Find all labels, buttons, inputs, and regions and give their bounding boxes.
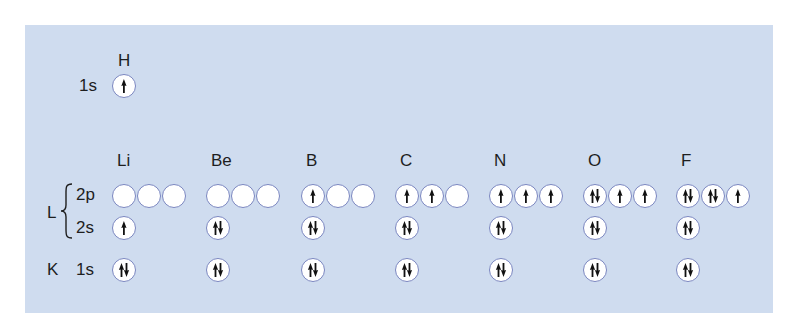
spin-pair-arrows-icon xyxy=(396,216,418,240)
subshell-label-2s: 2s xyxy=(76,219,94,237)
empty-orbital-icon xyxy=(327,184,349,208)
spin-pair-arrows-icon xyxy=(584,258,606,282)
element-label-li: Li xyxy=(117,152,130,170)
orbital-f-2s xyxy=(676,216,700,240)
element-label-o: O xyxy=(588,152,601,170)
spin-up-arrow-icon xyxy=(113,216,135,240)
spin-pair-arrows-icon xyxy=(677,258,699,282)
orbital-o-1s xyxy=(583,258,607,282)
orbital-be-2p-1 xyxy=(206,184,230,208)
orbital-c-2s xyxy=(395,216,419,240)
orbital-li-2p-2 xyxy=(137,184,161,208)
spin-pair-arrows-icon xyxy=(677,184,699,208)
spin-pair-arrows-icon xyxy=(396,258,418,282)
spin-pair-arrows-icon xyxy=(490,216,512,240)
spin-up-arrow-icon xyxy=(421,184,443,208)
orbital-b-2p-1 xyxy=(301,184,325,208)
empty-orbital-icon xyxy=(446,184,468,208)
element-label-n: N xyxy=(494,152,506,170)
element-label-h: H xyxy=(118,52,130,70)
orbital-be-2p-2 xyxy=(231,184,255,208)
element-label-b: B xyxy=(306,152,317,170)
orbital-n-2p-1 xyxy=(489,184,513,208)
orbital-n-2p-2 xyxy=(514,184,538,208)
orbital-be-2s xyxy=(206,216,230,240)
spin-pair-arrows-icon xyxy=(490,258,512,282)
element-label-c: C xyxy=(400,152,412,170)
orbital-li-1s xyxy=(112,258,136,282)
spin-pair-arrows-icon xyxy=(677,216,699,240)
subshell-label-2p: 2p xyxy=(76,186,95,204)
spin-up-arrow-icon xyxy=(113,74,135,98)
orbital-c-2p-1 xyxy=(395,184,419,208)
spin-up-arrow-icon xyxy=(609,184,631,208)
spin-pair-arrows-icon xyxy=(302,258,324,282)
spin-up-arrow-icon xyxy=(727,184,749,208)
orbital-f-2p-1 xyxy=(676,184,700,208)
orbital-f-1s xyxy=(676,258,700,282)
orbital-b-2p-3 xyxy=(351,184,375,208)
shell-label-k: K xyxy=(47,261,58,279)
orbital-b-1s xyxy=(301,258,325,282)
spin-pair-arrows-icon xyxy=(302,216,324,240)
orbital-o-2s xyxy=(583,216,607,240)
spin-pair-arrows-icon xyxy=(207,258,229,282)
empty-orbital-icon xyxy=(232,184,254,208)
brace-icon xyxy=(60,183,74,239)
spin-up-arrow-icon xyxy=(396,184,418,208)
orbital-li-2p-1 xyxy=(112,184,136,208)
spin-up-arrow-icon xyxy=(540,184,562,208)
empty-orbital-icon xyxy=(138,184,160,208)
orbital-n-1s xyxy=(489,258,513,282)
orbital-f-2p-3 xyxy=(726,184,750,208)
orbital-c-2p-3 xyxy=(445,184,469,208)
orbital-o-2p-1 xyxy=(583,184,607,208)
orbital-o-2p-3 xyxy=(633,184,657,208)
empty-orbital-icon xyxy=(352,184,374,208)
spin-pair-arrows-icon xyxy=(702,184,724,208)
orbital-li-2s xyxy=(112,216,136,240)
spin-pair-arrows-icon xyxy=(113,258,135,282)
element-label-f: F xyxy=(681,152,691,170)
orbital-n-2s xyxy=(489,216,513,240)
orbital-h-1s xyxy=(112,74,136,98)
spin-pair-arrows-icon xyxy=(207,216,229,240)
orbital-c-1s xyxy=(395,258,419,282)
element-label-be: Be xyxy=(211,152,232,170)
orbital-be-1s xyxy=(206,258,230,282)
subshell-label-1s: 1s xyxy=(76,261,94,279)
orbital-f-2p-2 xyxy=(701,184,725,208)
orbital-b-2p-2 xyxy=(326,184,350,208)
orbital-c-2p-2 xyxy=(420,184,444,208)
spin-pair-arrows-icon xyxy=(584,184,606,208)
empty-orbital-icon xyxy=(163,184,185,208)
spin-up-arrow-icon xyxy=(515,184,537,208)
spin-up-arrow-icon xyxy=(302,184,324,208)
orbital-li-2p-3 xyxy=(162,184,186,208)
shell-label-h-1s: 1s xyxy=(79,77,97,95)
orbital-o-2p-2 xyxy=(608,184,632,208)
spin-up-arrow-icon xyxy=(634,184,656,208)
empty-orbital-icon xyxy=(113,184,135,208)
shell-label-l: L xyxy=(47,204,56,222)
empty-orbital-icon xyxy=(257,184,279,208)
orbital-be-2p-3 xyxy=(256,184,280,208)
empty-orbital-icon xyxy=(207,184,229,208)
spin-up-arrow-icon xyxy=(490,184,512,208)
orbital-b-2s xyxy=(301,216,325,240)
orbital-n-2p-3 xyxy=(539,184,563,208)
spin-pair-arrows-icon xyxy=(584,216,606,240)
